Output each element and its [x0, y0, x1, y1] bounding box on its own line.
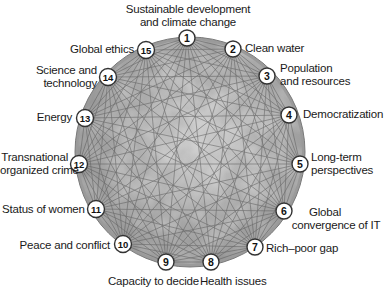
label-2: Clean water [245, 42, 304, 55]
challenge-node-13: 13 [77, 110, 94, 127]
node-number: 15 [141, 45, 152, 56]
node-number: 1 [184, 32, 190, 44]
challenge-node-14: 14 [100, 69, 117, 86]
node-number: 5 [297, 158, 303, 170]
challenge-node-1: 1 [179, 30, 195, 46]
label-15: Global ethics [2, 43, 134, 56]
node-number: 8 [208, 256, 214, 268]
label-11: Status of women [2, 203, 83, 216]
label-4: Democratization [303, 108, 383, 121]
node-number: 7 [252, 241, 258, 253]
challenge-node-11: 11 [88, 201, 105, 218]
challenge-node-3: 3 [259, 68, 275, 84]
node-number: 9 [163, 256, 169, 268]
label-10: Peace and conflict [2, 239, 110, 252]
node-number: 4 [286, 109, 292, 121]
label-13: Energy [2, 111, 72, 124]
node-number: 3 [264, 70, 270, 82]
label-5: Long-termperspectives [311, 151, 373, 177]
node-number: 13 [80, 113, 91, 124]
node-number: 10 [118, 239, 129, 250]
node-number: 14 [103, 72, 114, 83]
label-14: Science andtechnology [2, 64, 97, 90]
challenge-node-8: 8 [203, 254, 219, 270]
label-6: Globalconvergence of IT [286, 206, 386, 232]
label-3: Populationand resources [280, 62, 350, 88]
challenge-node-7: 7 [247, 239, 263, 255]
challenge-node-2: 2 [225, 41, 241, 57]
challenge-node-15: 15 [138, 42, 155, 59]
node-number: 11 [91, 204, 102, 215]
challenge-node-9: 9 [158, 254, 174, 270]
label-1: Sustainable developmentand climate chang… [122, 3, 254, 29]
challenge-node-10: 10 [115, 236, 132, 253]
label-7: Rich–poor gap [266, 242, 338, 255]
label-8: Health issues [200, 275, 266, 288]
challenge-node-4: 4 [281, 107, 297, 123]
label-12: Transnationalorganized crime [0, 151, 68, 177]
challenge-node-5: 5 [292, 156, 308, 172]
label-9: Capacity to decide [108, 275, 199, 288]
node-number: 2 [230, 43, 236, 55]
